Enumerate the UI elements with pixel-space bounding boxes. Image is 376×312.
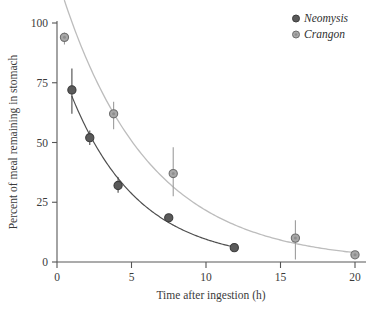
fit-curve-neomysis [72, 96, 234, 247]
legend-marker-neomysis [293, 15, 300, 22]
data-point-core-crangon-4 [354, 253, 357, 256]
y-tick-label-75: 75 [37, 77, 49, 89]
axes [57, 21, 366, 262]
data-point-neomysis-3 [165, 214, 173, 222]
data-point-core-crangon-2 [172, 172, 175, 175]
chart-canvas: 0255075100 05101520 Time after ingestion… [0, 0, 376, 312]
y-tick-label-25: 25 [37, 196, 49, 208]
y-axis-title: Percent of meal remaining in stomach [7, 54, 20, 229]
x-axis-title: Time after ingestion (h) [156, 289, 265, 302]
legend-label-neomysis: Neomysis [303, 12, 349, 25]
x-axis-tick-labels: 05101520 [54, 271, 361, 283]
data-point-core-crangon-1 [112, 112, 115, 115]
data-point-neomysis-1 [86, 134, 94, 142]
data-point-core-crangon-0 [63, 36, 66, 39]
y-tick-label-50: 50 [37, 137, 49, 149]
chart-legend: NeomysisCrangon [293, 12, 349, 41]
x-tick-label-15: 15 [275, 271, 287, 283]
x-tick-label-5: 5 [129, 271, 135, 283]
legend-marker-core-crangon [295, 33, 298, 36]
error-bars [64, 33, 295, 260]
data-point-neomysis-0 [68, 86, 76, 94]
chart-figure: 0255075100 05101520 Time after ingestion… [0, 0, 376, 312]
y-axis-ticks [52, 23, 57, 262]
y-tick-label-0: 0 [42, 256, 48, 268]
x-tick-label-0: 0 [54, 271, 60, 283]
y-tick-label-100: 100 [31, 17, 49, 29]
data-markers [60, 33, 359, 259]
legend-label-crangon: Crangon [304, 28, 345, 41]
x-tick-label-20: 20 [349, 271, 361, 283]
data-point-neomysis-2 [114, 181, 122, 189]
data-point-core-crangon-3 [294, 237, 297, 240]
x-axis-ticks [57, 262, 355, 268]
x-tick-label-10: 10 [200, 271, 212, 283]
y-axis-tick-labels: 0255075100 [31, 17, 49, 268]
data-point-neomysis-4 [230, 244, 238, 252]
